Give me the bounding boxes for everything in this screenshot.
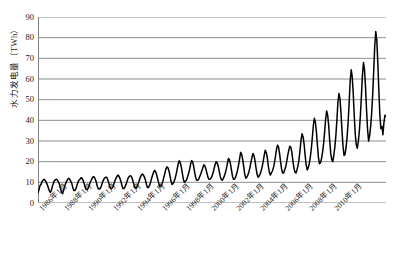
hydropower-line-chart: 水力发电量（TWh） 0102030405060708090 1986年1月19… — [0, 0, 393, 262]
y-tick-label: 50 — [12, 95, 34, 104]
x-axis-tick-labels: 1986年1月1988年1月1990年1月1992年1月1994年1月1996年… — [38, 205, 386, 262]
y-tick-label: 80 — [12, 33, 34, 42]
chart-svg — [38, 17, 386, 203]
y-tick-label: 90 — [12, 13, 34, 22]
series-line-hydropower — [38, 31, 386, 193]
y-tick-label: 20 — [12, 157, 34, 166]
plot-area — [38, 17, 386, 203]
y-tick-label: 70 — [12, 54, 34, 63]
y-tick-label: 0 — [12, 199, 34, 208]
y-tick-label: 30 — [12, 137, 34, 146]
y-tick-label: 40 — [12, 116, 34, 125]
y-axis-tick-labels: 0102030405060708090 — [10, 0, 34, 262]
y-tick-label: 10 — [12, 178, 34, 187]
y-tick-label: 60 — [12, 75, 34, 84]
